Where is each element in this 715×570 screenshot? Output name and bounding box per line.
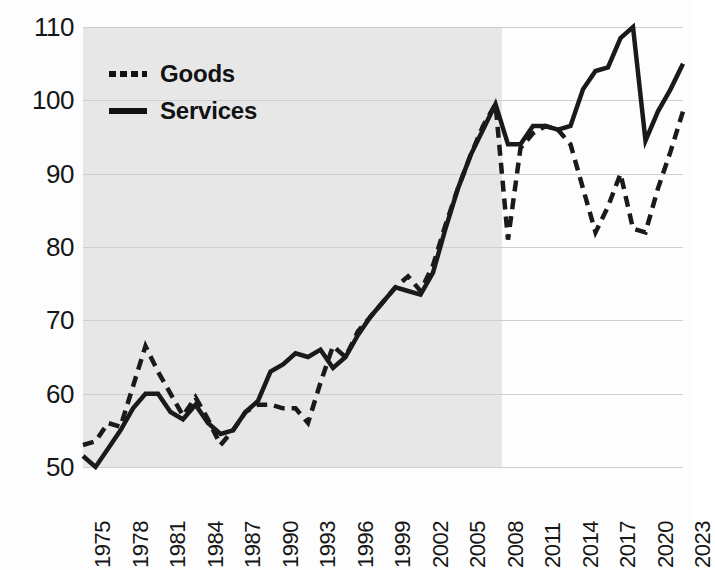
x-tick-label: 1996 — [355, 521, 377, 568]
legend-item-services[interactable]: Services — [108, 92, 338, 129]
legend-item-goods[interactable]: Goods — [108, 55, 338, 92]
x-tick-label: 1984 — [205, 521, 227, 568]
dashed-line-icon — [108, 66, 148, 82]
x-tick-label: 2011 — [542, 523, 564, 568]
series-line-goods — [83, 104, 683, 445]
y-tick-label: 110 — [4, 14, 74, 40]
x-tick-label: 2008 — [505, 521, 527, 568]
chart-legend: GoodsServices — [108, 55, 338, 129]
legend-label: Goods — [160, 60, 235, 88]
x-tick-label: 1999 — [392, 521, 414, 568]
gridline — [83, 467, 683, 468]
solid-line-icon — [108, 103, 148, 119]
y-tick-label: 50 — [4, 454, 74, 480]
legend-label: Services — [160, 97, 257, 125]
x-tick-label: 2005 — [467, 521, 489, 568]
x-tick-label: 2002 — [430, 521, 452, 568]
x-tick-label: 2020 — [655, 521, 677, 568]
x-axis: 1975197819811984198719901993199619992002… — [83, 472, 683, 570]
x-tick-label: 2014 — [580, 521, 602, 568]
x-tick-label: 1990 — [280, 521, 302, 568]
x-tick-label: 1978 — [130, 521, 152, 568]
y-axis: 1101009080706050 — [0, 0, 74, 570]
x-tick-label: 1987 — [242, 521, 264, 568]
y-tick-label: 70 — [4, 307, 74, 333]
x-tick-label: 1993 — [317, 521, 339, 568]
y-tick-label: 60 — [4, 381, 74, 407]
x-tick-label: 1975 — [92, 521, 114, 568]
x-tick-label: 2017 — [617, 521, 639, 568]
y-tick-label: 90 — [4, 161, 74, 187]
x-tick-label: 2023 — [692, 521, 714, 568]
x-tick-label: 1981 — [167, 521, 189, 568]
y-tick-label: 80 — [4, 234, 74, 260]
y-tick-label: 100 — [4, 87, 74, 113]
